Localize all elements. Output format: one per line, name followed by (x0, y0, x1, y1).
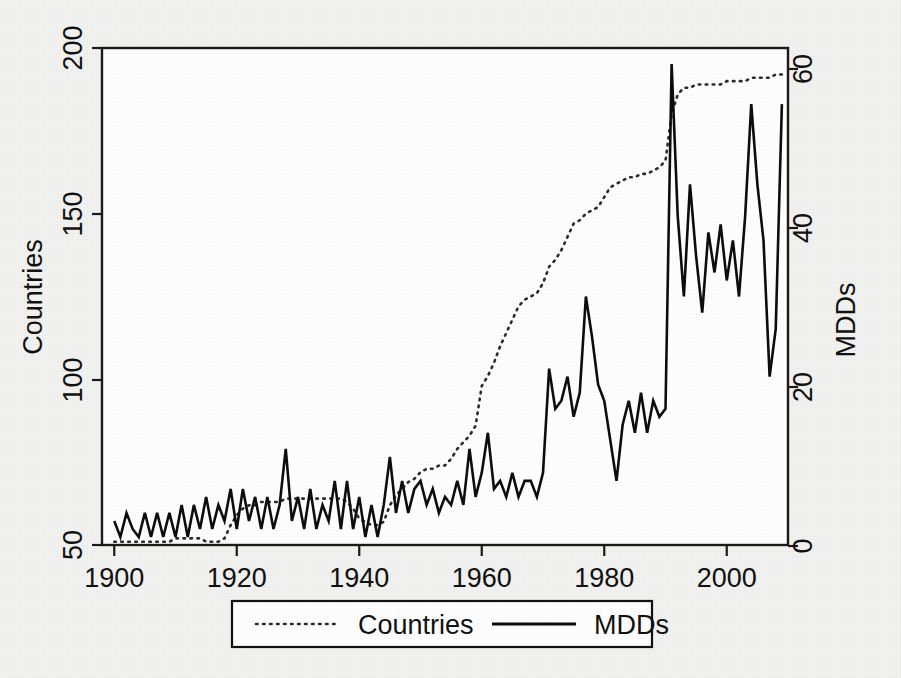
left-tick-label-150: 150 (58, 191, 88, 236)
legend-label-mdds: MDDs (594, 610, 669, 640)
right-axis-title: MDDs (831, 283, 861, 358)
legend-label-countries: Countries (358, 610, 474, 640)
chart-legend: Countries MDDs (232, 601, 669, 647)
x-tick-label-1920: 1920 (207, 563, 267, 593)
chart-page: 200 150 100 50 Countries 60 40 20 0 MDDs… (0, 0, 901, 678)
x-tick-label-1900: 1900 (84, 563, 144, 593)
bottom-axis: 190019201940196019802000 (84, 545, 757, 593)
x-tick-label-1960: 1960 (452, 563, 512, 593)
dual-axis-line-chart: 200 150 100 50 Countries 60 40 20 0 MDDs… (0, 0, 901, 678)
left-tick-label-50: 50 (58, 530, 88, 560)
right-tick-label-40: 40 (788, 213, 818, 243)
x-tick-label-1980: 1980 (574, 563, 634, 593)
left-axis: 200 150 100 50 Countries (18, 25, 102, 560)
left-tick-label-100: 100 (58, 357, 88, 402)
right-axis: 60 40 20 0 MDDs (788, 54, 861, 554)
right-tick-label-20: 20 (788, 372, 818, 402)
right-tick-label-0: 0 (788, 538, 818, 553)
left-axis-title: Countries (18, 239, 48, 355)
right-tick-label-60: 60 (788, 54, 818, 84)
x-tick-label-2000: 2000 (697, 563, 757, 593)
x-tick-label-1940: 1940 (329, 563, 389, 593)
left-tick-label-200: 200 (58, 25, 88, 70)
